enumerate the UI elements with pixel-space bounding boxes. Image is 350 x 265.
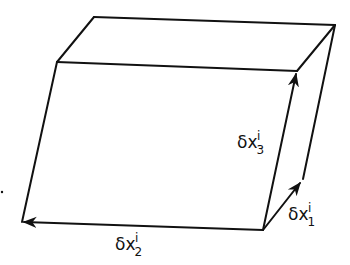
label-delta-x-3-subscript: 3	[256, 143, 264, 157]
label-delta-x-2-subscript: 2	[134, 245, 142, 259]
parallelepiped-diagram	[0, 0, 350, 265]
label-delta-x-1-subscript: 1	[307, 215, 315, 229]
stray-dot	[1, 191, 3, 193]
label-delta-x-1: δx1i	[288, 206, 319, 223]
edge-front-left	[22, 62, 57, 222]
edge-top-back	[94, 17, 335, 25]
label-delta-x-1-superscript: i	[308, 201, 311, 215]
label-delta-x-2-symbol: δx	[115, 234, 135, 254]
label-delta-x-2-superscript: i	[135, 231, 138, 245]
label-delta-x-3-symbol: δx	[237, 132, 257, 152]
edge-front-top	[57, 62, 297, 71]
edge-top-left	[57, 17, 94, 62]
label-delta-x-1-symbol: δx	[288, 204, 308, 224]
label-delta-x-3-superscript: i	[257, 129, 260, 143]
edge-back-right	[303, 25, 335, 179]
label-delta-x-3: δx3i	[237, 134, 268, 151]
vector-delta-x-2-arrow	[24, 222, 263, 230]
label-delta-x-2: δx2i	[115, 236, 146, 253]
